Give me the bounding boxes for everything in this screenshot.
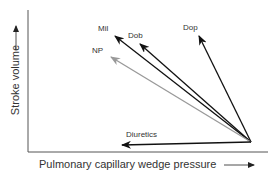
arrow-mil — [115, 36, 251, 142]
hemodynamic-diagram: Stroke volume Pulmonary capillary wedge … — [0, 0, 276, 172]
x-axis-label: Pulmonary capillary wedge pressure — [39, 158, 216, 170]
arrow-label-diuretics: Diuretics — [126, 130, 157, 139]
arrow-diuretics — [122, 142, 251, 145]
arrow-label-mil: Mil — [98, 24, 108, 33]
arrow-label-dop: Dop — [183, 23, 198, 32]
arrow-dob — [140, 44, 251, 142]
arrow-label-np: NP — [92, 46, 103, 55]
y-axis-label: Stroke volume — [9, 45, 21, 115]
arrow-label-dob: Dob — [128, 31, 143, 40]
